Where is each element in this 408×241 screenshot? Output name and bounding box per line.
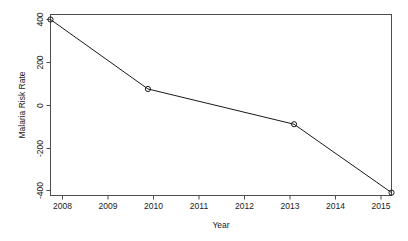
x-tick-label: 2010 — [144, 201, 163, 211]
y-tick-label: 400 — [35, 12, 45, 26]
chart-container: 400 200 0 -200 -400 Malaria Risk Rate 20… — [0, 0, 408, 241]
x-tick-label: 2013 — [281, 201, 300, 211]
x-tick-label: 2009 — [99, 201, 118, 211]
x-tick-label: 2012 — [235, 201, 254, 211]
x-axis-title: Year — [212, 220, 229, 230]
x-tick-label: 2015 — [372, 201, 391, 211]
y-tick-label: -400 — [35, 182, 45, 199]
x-tick-label: 2008 — [53, 201, 72, 211]
y-tick-label: 0 — [35, 103, 45, 108]
x-tick-label: 2014 — [326, 201, 345, 211]
y-tick-label: 200 — [35, 55, 45, 69]
y-axis-title: Malaria Risk Rate — [17, 71, 27, 138]
y-tick-label: -200 — [35, 140, 45, 157]
line-chart: 400 200 0 -200 -400 Malaria Risk Rate 20… — [0, 0, 408, 241]
x-tick-label: 2011 — [190, 201, 209, 211]
